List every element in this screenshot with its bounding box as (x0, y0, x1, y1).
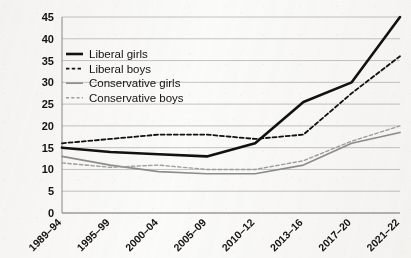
y-tick-label: 20 (42, 120, 54, 132)
legend-label-conservative-girls: Conservative girls (89, 77, 181, 89)
gridlines (62, 17, 400, 213)
chart-legend: Liberal girlsLiberal boysConservative gi… (66, 48, 184, 104)
y-axis-tick-labels: 051015202530354045 (42, 11, 54, 219)
x-tick-label: 2000–04 (123, 216, 161, 254)
x-tick-label: 2021–22 (364, 216, 402, 254)
x-tick-label: 1995–99 (74, 216, 112, 254)
legend-label-conservative-boys: Conservative boys (89, 92, 184, 104)
y-tick-label: 25 (42, 98, 54, 110)
legend-label-liberal-girls: Liberal girls (89, 48, 148, 60)
line-chart: 051015202530354045 1989–941995–992000–04… (0, 0, 411, 258)
legend-label-liberal-boys: Liberal boys (89, 63, 151, 75)
x-tick-label: 2013–16 (267, 216, 305, 254)
y-tick-label: 45 (42, 11, 54, 23)
x-tick-label: 1989–94 (26, 216, 64, 254)
y-tick-label: 5 (48, 185, 54, 197)
chart-canvas: 051015202530354045 1989–941995–992000–04… (0, 0, 411, 258)
y-tick-label: 40 (42, 33, 54, 45)
y-tick-label: 30 (42, 76, 54, 88)
y-tick-label: 10 (42, 163, 54, 175)
axis-lines (62, 17, 400, 213)
y-tick-label: 15 (42, 142, 54, 154)
y-tick-label: 35 (42, 55, 54, 67)
x-tick-label: 2005–09 (171, 216, 209, 254)
x-axis-tick-labels: 1989–941995–992000–042005–092010–122013–… (26, 216, 402, 254)
x-tick-label: 2017–20 (316, 216, 354, 254)
x-tick-label: 2010–12 (219, 216, 257, 254)
